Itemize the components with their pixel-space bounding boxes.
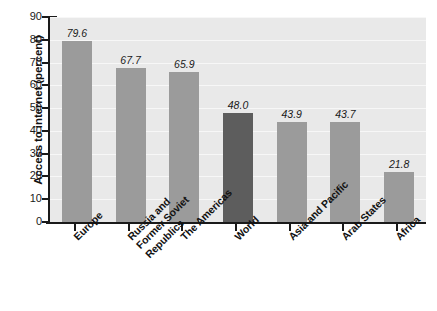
y-tick-label: 20	[2, 170, 42, 181]
bar	[223, 113, 253, 222]
bar-value-label: 67.7	[101, 55, 161, 66]
y-tick-mark	[42, 153, 48, 155]
y-tick-label: 10	[2, 193, 42, 204]
bar	[62, 41, 92, 222]
y-tick-label: 70	[2, 57, 42, 68]
bar-value-label: 79.6	[47, 28, 107, 39]
bar	[330, 122, 360, 222]
bar	[277, 122, 307, 222]
y-tick-label: 30	[2, 148, 42, 159]
y-tick-mark	[42, 107, 48, 109]
bar-value-label: 21.8	[369, 159, 429, 170]
y-tick-mark	[42, 39, 48, 41]
y-tick-label: 90	[2, 11, 42, 22]
bar	[116, 68, 146, 222]
y-tick-mark	[42, 130, 48, 132]
bar-chart: Access to internet (percent) 79.667.765.…	[0, 0, 437, 311]
bar	[384, 172, 414, 222]
y-tick-label: 0	[2, 216, 42, 227]
y-tick-label: 60	[2, 79, 42, 90]
y-tick-mark	[42, 175, 48, 177]
gridline	[50, 17, 426, 18]
y-tick-mark	[42, 221, 48, 223]
gridline	[50, 40, 426, 41]
gridline	[50, 85, 426, 86]
bar-value-label: 65.9	[154, 59, 214, 70]
y-tick-mark	[42, 84, 48, 86]
y-tick-mark	[42, 198, 48, 200]
plot-area: 79.667.765.948.043.943.721.8	[48, 17, 426, 222]
bar-value-label: 48.0	[208, 100, 268, 111]
y-tick-mark	[42, 16, 48, 18]
bar-value-label: 43.7	[315, 109, 375, 120]
y-tick-mark	[42, 62, 48, 64]
bar-value-label: 43.9	[262, 109, 322, 120]
y-tick-label: 80	[2, 34, 42, 45]
y-tick-label: 50	[2, 102, 42, 113]
y-tick-label: 40	[2, 125, 42, 136]
